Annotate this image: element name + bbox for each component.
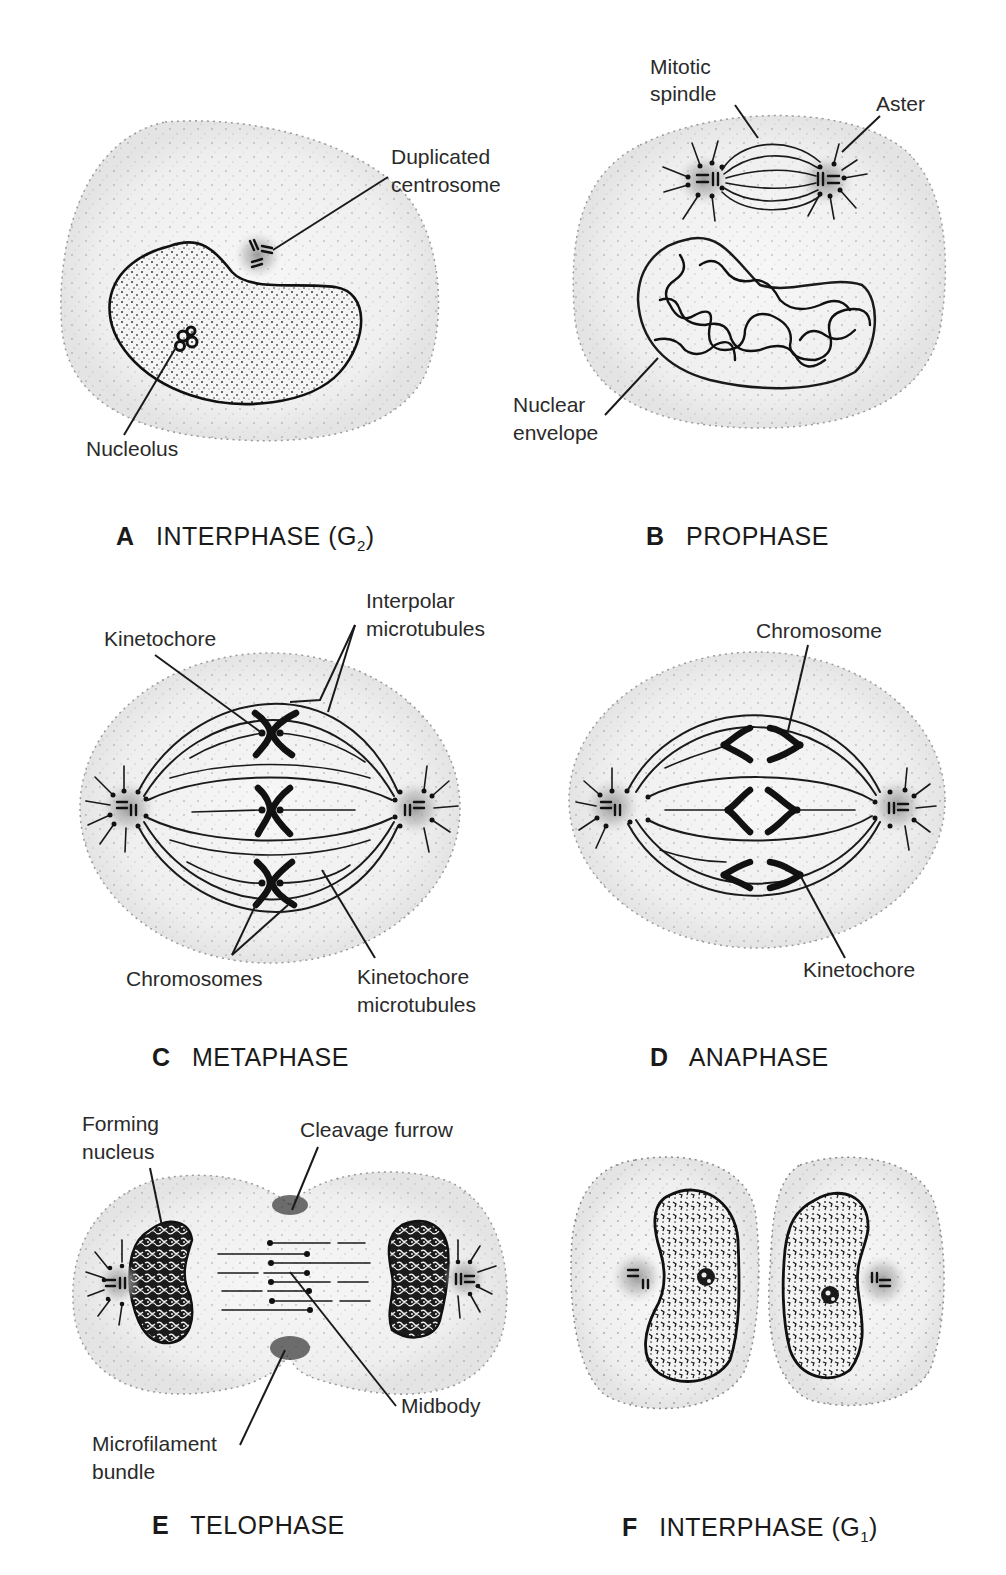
centrosome-a [234, 231, 282, 279]
panel-e-telophase: Forming nucleus Cleavage furrow Midbody … [73, 1112, 507, 1539]
cell-b [573, 116, 945, 428]
label-mitotic: Mitotic [650, 55, 711, 78]
label-chromosome-d: Chromosome [756, 619, 882, 642]
label-midbody: Midbody [401, 1394, 481, 1417]
label-chromosomes: Chromosomes [126, 967, 263, 990]
panel-b-prophase: Mitotic spindle Aster Nuclear envelope B… [513, 55, 945, 550]
caption-f: F INTERPHASE (G1) [622, 1513, 878, 1545]
label-forming: Forming [82, 1112, 159, 1135]
label-centrosome: centrosome [391, 173, 501, 196]
label-interpolar: Interpolar [366, 589, 455, 612]
caption-a: A INTERPHASE (G2) [116, 522, 375, 554]
label-nucleus: nucleus [82, 1140, 154, 1163]
label-aster: Aster [876, 92, 925, 115]
label-nuclear: Nuclear [513, 393, 585, 416]
label-duplicated: Duplicated [391, 145, 490, 168]
caption-c: C METAPHASE [152, 1043, 349, 1071]
label-microfilament: Microfilament [92, 1432, 217, 1455]
label-kinetochore-c: Kinetochore [104, 627, 216, 650]
label-envelope: envelope [513, 421, 598, 444]
label-microtubules-bottom: microtubules [357, 993, 476, 1016]
label-spindle: spindle [650, 82, 717, 105]
label-microtubules-top: microtubules [366, 617, 485, 640]
caption-e: E TELOPHASE [152, 1511, 345, 1539]
panel-d-anaphase: Chromosome Kinetochore D ANAPHASE [569, 619, 945, 1071]
caption-d: D ANAPHASE [650, 1043, 829, 1071]
label-bundle: bundle [92, 1460, 155, 1483]
panel-f-interphase-g1: F INTERPHASE (G1) [571, 1157, 944, 1545]
panel-c-metaphase: Kinetochore Interpolar microtubules Chro… [80, 589, 485, 1071]
label-kinetochore-mt: Kinetochore [357, 965, 469, 988]
label-kinetochore-d: Kinetochore [803, 958, 915, 981]
mitosis-figure: Duplicated centrosome Nucleolus A INTERP… [0, 0, 1006, 1575]
panel-a-interphase-g2: Duplicated centrosome Nucleolus A INTERP… [61, 121, 501, 554]
label-nucleolus: Nucleolus [86, 437, 178, 460]
caption-b: B PROPHASE [646, 522, 829, 550]
daughter-cell-left-f [571, 1157, 759, 1409]
label-cleavage-furrow: Cleavage furrow [300, 1118, 454, 1141]
daughter-cell-right-f [769, 1157, 944, 1405]
forming-nucleus-right-e [389, 1221, 449, 1337]
